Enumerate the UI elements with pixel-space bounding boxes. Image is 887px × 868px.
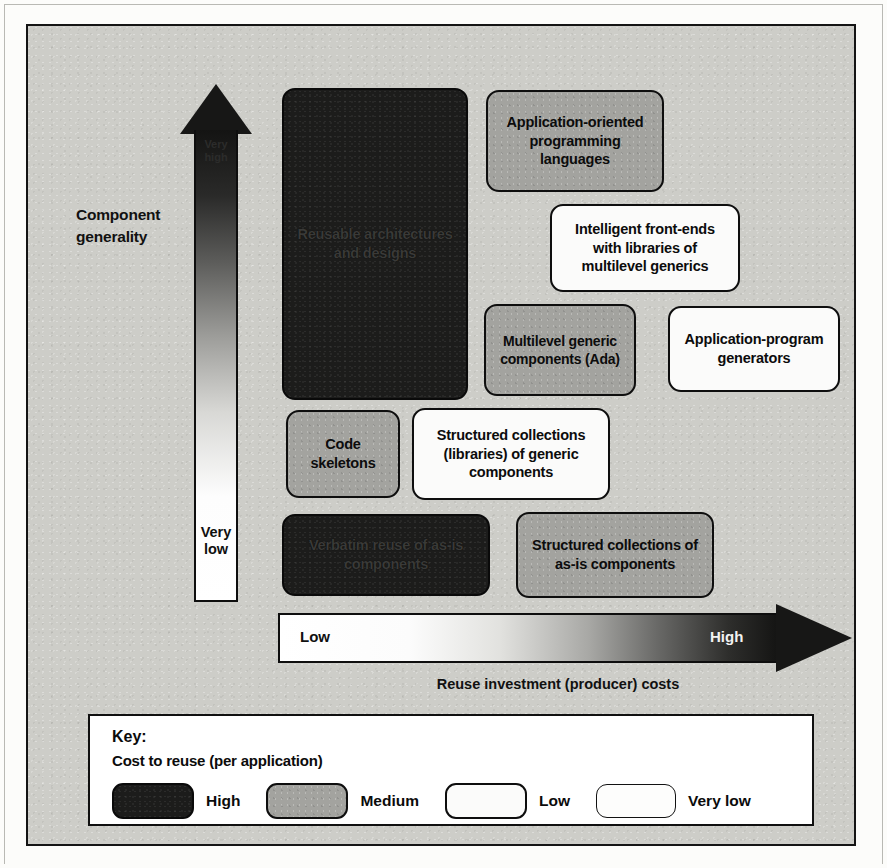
- key-item-very-low: Very low: [596, 784, 751, 818]
- box-label: Verbatim reuse of as-is components: [292, 536, 480, 574]
- key-swatch-high: [112, 783, 194, 819]
- arrow-shaft-horizontal: [278, 613, 778, 663]
- x-axis-label: Reuse investment (producer) costs: [278, 676, 838, 692]
- key-title: Key:: [112, 728, 147, 746]
- component-generality-arrow: Very high Very low: [180, 84, 252, 602]
- box-label: Reusable architectures and designs: [292, 225, 458, 263]
- key-label-very-low: Very low: [688, 792, 751, 810]
- box-label: Code skeletons: [296, 435, 390, 473]
- arrow-head-right-icon: [776, 604, 852, 672]
- reuse-investment-arrow: Low High: [278, 604, 856, 672]
- key-swatch-very-low: [596, 784, 676, 818]
- key-legend: Key: Cost to reuse (per application) Hig…: [88, 714, 814, 826]
- box-reusable-architectures[interactable]: Reusable architectures and designs: [282, 88, 468, 400]
- key-subtitle: Cost to reuse (per application): [112, 752, 323, 769]
- key-swatch-medium: [266, 783, 348, 819]
- key-label-low: Low: [539, 792, 570, 810]
- box-structured-generic-collections[interactable]: Structured collections (libraries) of ge…: [412, 408, 610, 500]
- figure-page: Component generality Very high Very low …: [0, 0, 887, 868]
- key-label-medium: Medium: [360, 792, 419, 810]
- page-rule-top: [4, 4, 883, 5]
- box-structured-as-is-collections[interactable]: Structured collections of as-is componen…: [516, 512, 714, 598]
- box-label: Structured collections of as-is componen…: [526, 536, 704, 574]
- box-verbatim-components[interactable]: Verbatim reuse of as-is components: [282, 514, 490, 596]
- arrow-head-up-icon: [180, 84, 252, 134]
- box-label: Application-oriented programming languag…: [496, 113, 654, 170]
- box-label: Application-program generators: [678, 330, 830, 368]
- key-label-high: High: [206, 792, 240, 810]
- figure-panel: Component generality Very high Very low …: [26, 24, 856, 846]
- y-axis-high-label: Very high: [194, 138, 238, 164]
- box-label: Intelligent front-ends with libraries of…: [560, 220, 730, 277]
- box-label: Structured collections (libraries) of ge…: [422, 426, 600, 483]
- box-application-program-generators[interactable]: Application-program generators: [668, 306, 840, 392]
- x-axis-low-label: Low: [300, 628, 330, 645]
- key-item-medium: Medium: [266, 783, 419, 819]
- box-code-skeletons[interactable]: Code skeletons: [286, 410, 400, 498]
- page-rule-left: [4, 4, 5, 864]
- box-multilevel-generic-components[interactable]: Multilevel generic components (Ada): [484, 304, 636, 396]
- page-rule-right: [882, 4, 883, 864]
- box-label: Multilevel generic components (Ada): [494, 332, 626, 368]
- key-item-list: High Medium Low Very low: [112, 780, 802, 822]
- y-axis-low-label: Very low: [194, 524, 238, 559]
- box-application-oriented-languages[interactable]: Application-oriented programming languag…: [486, 90, 664, 192]
- y-axis-label: Component generality: [76, 204, 196, 248]
- key-item-low: Low: [445, 783, 570, 819]
- x-axis-high-label: High: [710, 628, 743, 645]
- key-swatch-low: [445, 783, 527, 819]
- box-intelligent-front-ends[interactable]: Intelligent front-ends with libraries of…: [550, 204, 740, 292]
- key-item-high: High: [112, 783, 240, 819]
